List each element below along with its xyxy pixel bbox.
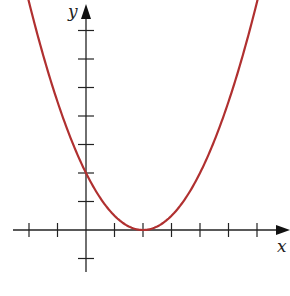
y-axis-label: y [67, 1, 78, 21]
y-axis-arrow-icon [81, 4, 91, 19]
x-axis-arrow-icon [276, 225, 290, 235]
x-axis-label: x [277, 236, 287, 256]
parabola-curve [28, 0, 259, 230]
parabola-chart: x y [0, 0, 290, 296]
